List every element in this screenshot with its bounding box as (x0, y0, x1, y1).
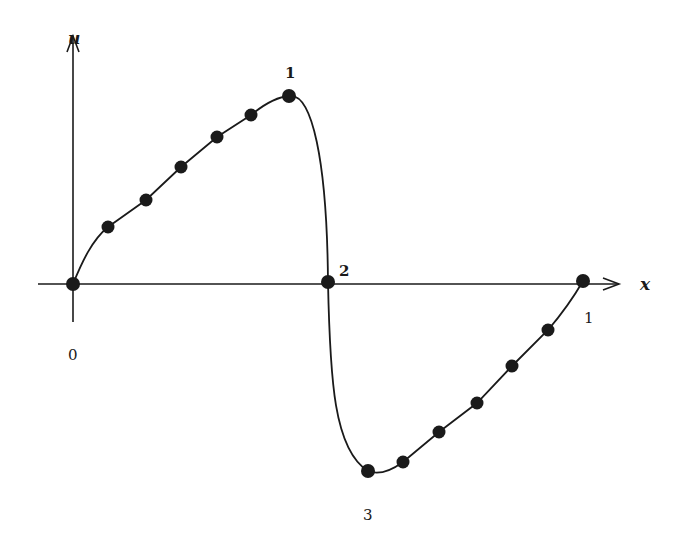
label-origin: 0 (68, 346, 78, 364)
marker (175, 161, 188, 174)
label-trough: 3 (363, 506, 373, 524)
marker (433, 426, 446, 439)
marker (140, 194, 153, 207)
diagram-figure: u x 0 1 2 1 3 (0, 0, 684, 555)
x-axis-label: x (639, 274, 651, 294)
marker (211, 131, 224, 144)
marker-trough (361, 464, 375, 478)
marker (397, 456, 410, 469)
marker (245, 109, 258, 122)
marker (471, 397, 484, 410)
marker-crossing (321, 275, 335, 289)
marker-right-end (576, 274, 590, 288)
marker (542, 324, 555, 337)
label-right-end: 1 (584, 309, 594, 327)
label-peak: 1 (285, 64, 295, 82)
marker-origin (66, 277, 80, 291)
marker (102, 221, 115, 234)
y-axis-label: u (68, 28, 80, 48)
label-crossing: 2 (339, 262, 349, 280)
marker-peak (282, 89, 296, 103)
marker (506, 360, 519, 373)
